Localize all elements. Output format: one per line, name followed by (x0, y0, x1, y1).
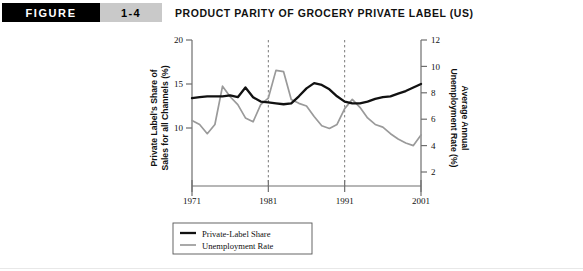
y-tick-label-right: 2 (431, 167, 436, 177)
legend-label-private-label: Private-Label Share (202, 229, 271, 239)
y-tick-label-left: 10 (174, 123, 184, 133)
x-axis-ticks: 1971198119912001 (183, 180, 430, 206)
footer-divider (0, 268, 583, 269)
svg-text:Average Annual: Average Annual (460, 86, 470, 151)
legend-label-unemployment: Unemployment Rate (202, 241, 274, 251)
y-tick-label-left: 15 (174, 79, 184, 89)
y-tick-label-right: 12 (431, 35, 440, 45)
x-tick-label: 1971 (183, 196, 201, 206)
chart-area: 101520 24681012 1971198119912001 Private… (0, 24, 583, 271)
svg-text:Sales for all Channels (%): Sales for all Channels (%) (160, 65, 170, 170)
series-private-label-share (192, 83, 421, 104)
y-tick-label-left: 20 (174, 35, 184, 45)
y-tick-label-right: 10 (431, 62, 441, 72)
x-tick-label: 1981 (259, 196, 277, 206)
x-tick-label: 1991 (336, 196, 354, 206)
y-axis-right-title: Average Annual Unemployment Rate (%) (449, 69, 470, 168)
series-unemployment-rate (192, 70, 421, 145)
figure-label-box: FIGURE (2, 3, 100, 22)
y-axis-left-ticks: 101520 (174, 35, 192, 133)
figure-number-box: 1-4 (100, 3, 162, 22)
figure-container: FIGURE 1-4 PRODUCT PARITY OF GROCERY PRI… (0, 0, 583, 271)
svg-text:Unemployment Rate (%): Unemployment Rate (%) (449, 69, 459, 168)
line-chart: 101520 24681012 1971198119912001 Private… (0, 24, 583, 271)
chart-legend: Private-Label Share Unemployment Rate (173, 223, 312, 254)
y-tick-label-right: 8 (431, 88, 436, 98)
figure-header: FIGURE 1-4 PRODUCT PARITY OF GROCERY PRI… (0, 3, 583, 22)
y-tick-label-right: 4 (431, 141, 436, 151)
x-tick-label: 2001 (412, 196, 430, 206)
reference-lines (268, 40, 344, 186)
page-title: PRODUCT PARITY OF GROCERY PRIVATE LABEL … (175, 3, 474, 22)
y-axis-left-title: Private Label's Share of Sales for all C… (149, 65, 170, 170)
y-tick-label-right: 6 (431, 114, 436, 124)
y-axis-right-ticks: 24681012 (421, 35, 441, 177)
svg-text:Private Label's Share of: Private Label's Share of (149, 69, 159, 166)
